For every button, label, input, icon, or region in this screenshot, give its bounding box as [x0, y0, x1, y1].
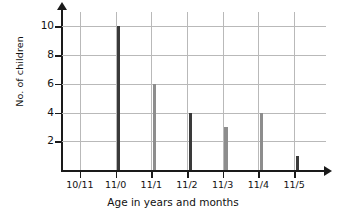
x-axis-line [61, 170, 326, 172]
plot-area [62, 12, 312, 170]
x-axis-title: Age in years and months [0, 196, 346, 208]
x-axis-tick [80, 172, 82, 178]
y-axis-tick [55, 55, 62, 57]
gridline-horizontal [62, 55, 326, 56]
x-axis-tick-label: 11/5 [271, 180, 317, 190]
bar-11-1 [153, 84, 156, 170]
y-axis-tick [55, 113, 62, 115]
y-axis-tick [55, 141, 62, 143]
bar-11-4 [260, 113, 263, 170]
x-axis-tick [187, 172, 189, 178]
x-axis-tick [258, 172, 260, 178]
gridline-vertical [294, 12, 295, 170]
y-axis-tick [55, 84, 62, 86]
bar-11-0 [117, 26, 120, 170]
gridline-horizontal [62, 113, 326, 114]
y-axis-arrow-icon [57, 2, 67, 10]
x-axis-arrow-icon [324, 166, 332, 176]
y-axis-title: No. of children [14, 12, 25, 132]
x-axis-tick [151, 172, 153, 178]
bar-11-2 [189, 113, 192, 170]
chart-figure: No. of children 246810 10/1111/011/111/2… [0, 0, 346, 219]
y-axis-tick-label: 4 [34, 107, 54, 118]
y-axis-tick-label: 8 [34, 49, 54, 60]
bar-11-5 [296, 156, 299, 170]
gridline-horizontal [62, 84, 326, 85]
x-axis-tick [294, 172, 296, 178]
x-axis-tick [223, 172, 225, 178]
y-axis-tick-label: 10 [34, 20, 54, 31]
y-axis-tick [55, 26, 62, 28]
gridline-vertical [80, 12, 81, 170]
gridline-horizontal [62, 26, 326, 27]
y-axis-tick-label: 6 [34, 78, 54, 89]
x-axis-tick [116, 172, 118, 178]
bar-11-3 [224, 127, 227, 170]
gridline-horizontal [62, 141, 326, 142]
y-axis-tick-label: 2 [34, 135, 54, 146]
